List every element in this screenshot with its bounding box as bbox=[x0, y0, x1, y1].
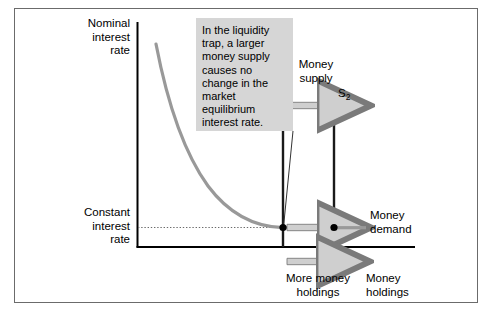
money-demand-label: Money demand bbox=[370, 209, 466, 236]
y-axis-label: Nominal interest rate bbox=[54, 17, 130, 58]
x-axis-label: Money holdings bbox=[366, 272, 458, 299]
more-money-holdings-label: More money holdings bbox=[272, 272, 364, 299]
figure-container: Nominal interest rate Constant interest … bbox=[0, 0, 493, 316]
liquidity-trap-callout: In the liquidity trap, a larger money su… bbox=[196, 18, 293, 131]
callout-leader-line bbox=[284, 131, 294, 227]
supply-curve-s2-label: S2 bbox=[338, 87, 350, 105]
constant-interest-rate-label: Constant interest rate bbox=[50, 206, 130, 247]
s2-letter: S bbox=[338, 87, 346, 99]
s2-subscript: 2 bbox=[346, 92, 351, 102]
equilibrium-dot-1 bbox=[279, 224, 286, 231]
equilibrium-dot-2 bbox=[330, 224, 337, 231]
